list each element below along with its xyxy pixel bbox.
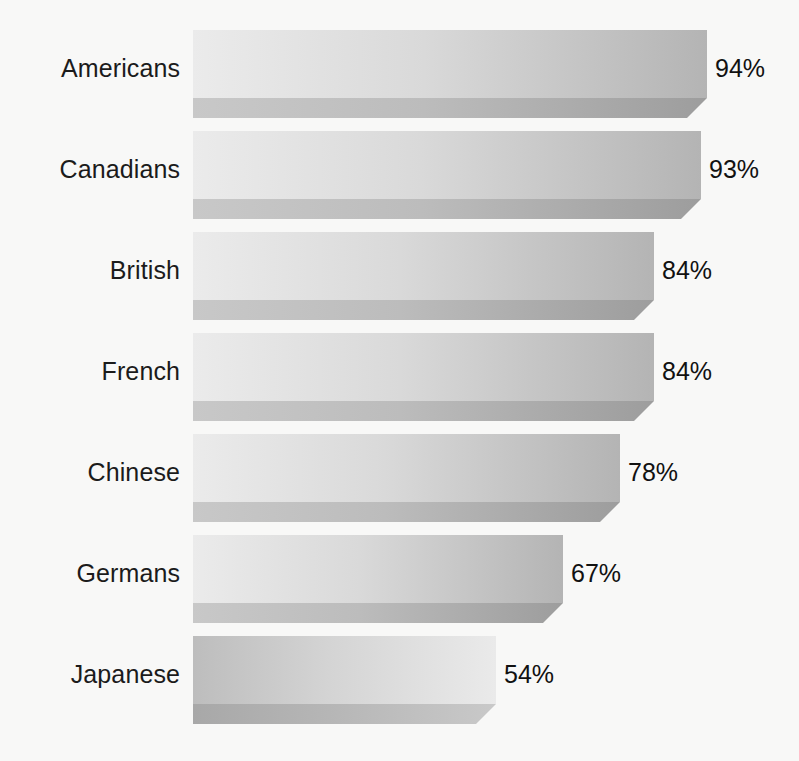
bar-japanese xyxy=(193,636,496,724)
category-label: Canadians xyxy=(0,155,180,184)
bar-row: Canadians 93% xyxy=(0,121,799,222)
bar-chinese xyxy=(193,434,620,522)
bar-top-face xyxy=(193,333,654,401)
bar-row: French 84% xyxy=(0,323,799,424)
bar-bottom-face xyxy=(193,401,654,421)
bar-bottom-face xyxy=(193,502,620,522)
bar-bottom-face xyxy=(193,704,496,724)
bar-top-face xyxy=(193,434,620,502)
bar-top-face xyxy=(193,232,654,300)
bar-bottom-face xyxy=(193,603,563,623)
category-label: British xyxy=(0,256,180,285)
bar-canadians xyxy=(193,131,701,219)
category-label: French xyxy=(0,357,180,386)
category-label: Americans xyxy=(0,54,180,83)
bar-row: British 84% xyxy=(0,222,799,323)
bar-top-face xyxy=(193,636,496,704)
category-label: Chinese xyxy=(0,458,180,487)
bar-french xyxy=(193,333,654,421)
bar-british xyxy=(193,232,654,320)
bar-top-face xyxy=(193,30,707,98)
bar-value-label: 67% xyxy=(571,559,621,588)
bar-row: Chinese 78% xyxy=(0,424,799,525)
category-label: Japanese xyxy=(0,660,180,689)
bar-value-label: 78% xyxy=(628,458,678,487)
bar-chart: Americans 94% Canadians 93% British 84% … xyxy=(0,0,799,761)
bar-value-label: 54% xyxy=(504,660,554,689)
bar-value-label: 94% xyxy=(715,54,765,83)
bar-top-face xyxy=(193,131,701,199)
bar-row: Japanese 54% xyxy=(0,626,799,727)
bar-value-label: 84% xyxy=(662,357,712,386)
bar-row: Americans 94% xyxy=(0,20,799,121)
bar-germans xyxy=(193,535,563,623)
bar-value-label: 93% xyxy=(709,155,759,184)
bar-americans xyxy=(193,30,707,118)
bar-bottom-face xyxy=(193,300,654,320)
bar-bottom-face xyxy=(193,98,707,118)
bar-value-label: 84% xyxy=(662,256,712,285)
bar-top-face xyxy=(193,535,563,603)
bar-row: Germans 67% xyxy=(0,525,799,626)
category-label: Germans xyxy=(0,559,180,588)
bar-bottom-face xyxy=(193,199,701,219)
